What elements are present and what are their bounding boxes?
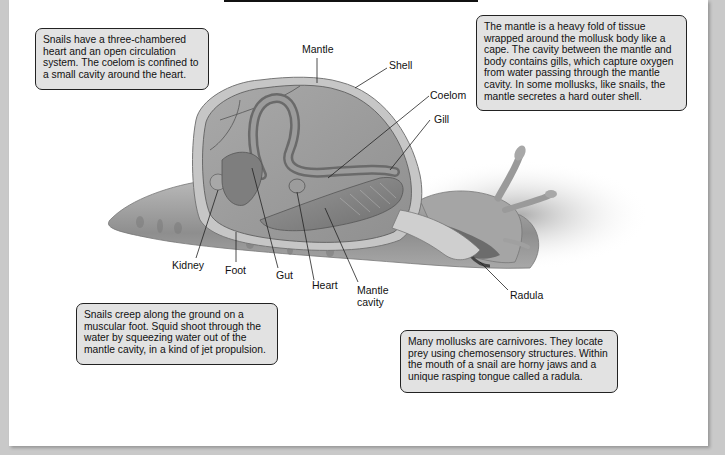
callout-locomotion: Snails creep along the ground on a muscu… [76, 303, 278, 365]
label-radula: Radula [510, 290, 543, 302]
label-mantle: Mantle [302, 44, 334, 56]
callout-feeding: Many mollusks are carnivores. They locat… [400, 330, 618, 393]
label-gut: Gut [276, 270, 293, 282]
callout-mantle: The mantle is a heavy fold of tissue wra… [476, 15, 687, 111]
label-gill: Gill [434, 114, 449, 126]
label-foot: Foot [225, 265, 246, 277]
heart-organ [289, 179, 305, 193]
callout-circulation: Snails have a three-chambered heart and … [35, 28, 209, 90]
label-heart: Heart [312, 280, 338, 292]
label-coelom: Coelom [430, 90, 466, 102]
label-mantle-cavity-line1: Mantle [357, 285, 389, 297]
label-mantle-cavity-line2: cavity [357, 297, 384, 309]
label-kidney: Kidney [172, 260, 204, 272]
label-shell: Shell [389, 60, 412, 72]
